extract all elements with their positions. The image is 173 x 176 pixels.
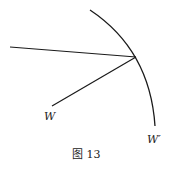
horizontal-line: [10, 47, 136, 57]
arc-w-prime: [90, 10, 155, 126]
figure-caption: 图 13: [72, 145, 101, 161]
label-w: W: [44, 110, 55, 123]
label-w-prime: W′: [147, 133, 161, 146]
line-from-w: [52, 57, 136, 106]
